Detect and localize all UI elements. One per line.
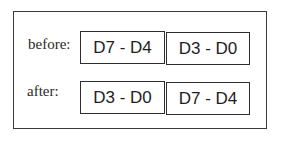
before-low-nibble-cell: D3 - D0 bbox=[166, 32, 250, 65]
after-label: after: bbox=[27, 83, 59, 100]
before-high-nibble-cell: D7 - D4 bbox=[80, 31, 165, 64]
after-low-nibble-cell: D3 - D0 bbox=[80, 81, 165, 114]
after-high-nibble-cell: D7 - D4 bbox=[166, 82, 250, 115]
before-label: before: bbox=[28, 36, 70, 53]
